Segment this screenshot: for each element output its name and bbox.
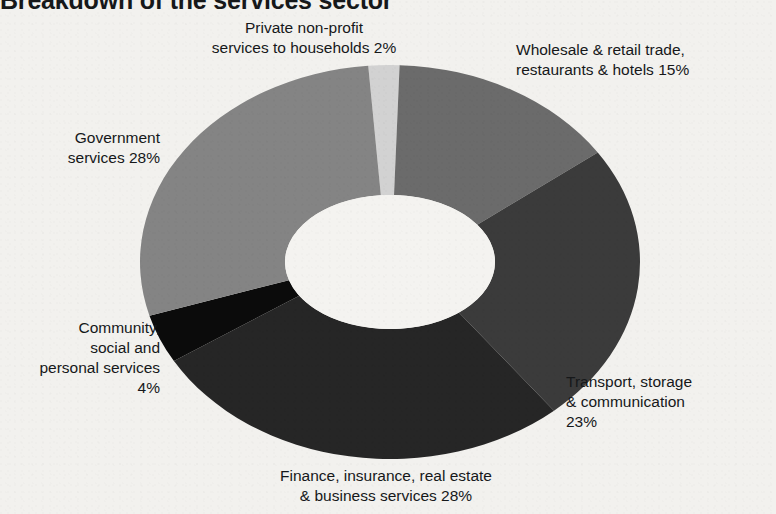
- slice-label-line: Private non-profit: [186, 18, 422, 38]
- donut-hole: [285, 195, 495, 329]
- slice-label-line: 23%: [566, 412, 772, 432]
- slice-label-line: Community,: [4, 318, 160, 338]
- slice-label-line: services 28%: [4, 148, 160, 168]
- slice-label-line: & communication: [566, 392, 772, 412]
- slice-label-line: services to households 2%: [186, 38, 422, 58]
- slice-label-line: Finance, insurance, real estate: [192, 466, 580, 486]
- slice-label-line: personal services: [4, 358, 160, 378]
- slice-label-line: Government: [4, 128, 160, 148]
- slice-label-wholesale-retail: Wholesale & retail trade, restaurants & …: [516, 40, 766, 80]
- slice-label-government-services: Government services 28%: [4, 128, 160, 168]
- slice-label-community-social: Community, social and personal services …: [4, 318, 160, 399]
- slice-label-line: social and: [4, 338, 160, 358]
- slice-label-line: Transport, storage: [566, 372, 772, 392]
- slice-label-line: & business services 28%: [192, 486, 580, 506]
- slice-label-line: Wholesale & retail trade,: [516, 40, 766, 60]
- slice-label-finance-insurance: Finance, insurance, real estate & busine…: [192, 466, 580, 506]
- slice-label-line: restaurants & hotels 15%: [516, 60, 766, 80]
- slice-label-transport-storage: Transport, storage & communication 23%: [566, 372, 772, 432]
- slice-label-line: 4%: [4, 378, 160, 398]
- chart-page: Breakdown of the services sector Private…: [0, 0, 776, 514]
- slice-label-private-nonprofit: Private non-profit services to household…: [186, 18, 422, 58]
